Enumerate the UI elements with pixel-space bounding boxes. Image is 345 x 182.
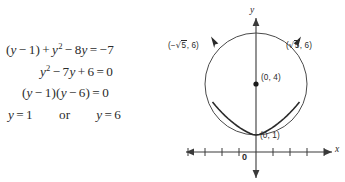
- y-axis-arrowhead-bottom: [253, 170, 260, 178]
- label-intersection-right: (√5, 6): [286, 40, 312, 50]
- x-axis-arrowhead-left: [186, 149, 194, 156]
- equation-line-4: y=1ory=6 y = 1 or y = 6: [8, 107, 173, 123]
- label-intersection-left: (−√5, 6): [168, 40, 199, 50]
- graph-svg: [170, 0, 345, 182]
- figure-page: (y−1)+y2−8y=−7 (y − 1) + y² − 8y = −7 y2…: [0, 0, 345, 182]
- equation-line-3: (y−1)(y−6)=0 (y − 1)(y − 6) = 0: [22, 85, 187, 101]
- equation-line-1: (y−1)+y2−8y=−7 (y − 1) + y² − 8y = −7: [6, 42, 171, 58]
- x-axis-arrowhead-right: [324, 149, 332, 156]
- label-y-axis: y: [250, 5, 254, 15]
- parabola-arrowhead-left: [211, 37, 218, 48]
- coordinate-graph: (−√5, 6) (√5, 6) (0, 4) (0, 1) x y 0: [170, 0, 345, 182]
- label-x-axis: x: [335, 144, 339, 154]
- circle-center-dot: [253, 81, 258, 86]
- label-circle-center: (0, 4): [261, 73, 281, 82]
- y-axis-arrowhead-top: [253, 18, 260, 26]
- conjunction-or: or: [59, 107, 70, 122]
- label-parabola-vertex: (0, 1): [260, 131, 280, 140]
- label-origin: 0: [242, 152, 247, 162]
- solution-steps: (y−1)+y2−8y=−7 (y − 1) + y² − 8y = −7 y2…: [0, 42, 165, 138]
